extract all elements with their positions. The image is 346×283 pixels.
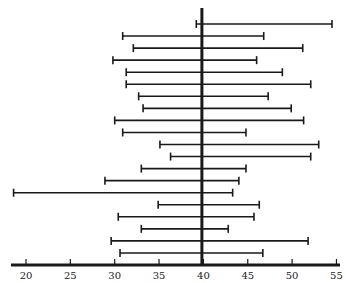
interval-16: [158, 201, 259, 209]
interval-6: [126, 80, 310, 88]
interval-2: [123, 32, 264, 40]
x-tick-label: 25: [64, 270, 77, 281]
interval-bars: [14, 20, 332, 257]
interval-1: [196, 20, 332, 28]
interval-11: [160, 141, 319, 149]
interval-20: [120, 249, 263, 257]
interval-14: [105, 177, 239, 185]
x-tick-label: 20: [20, 270, 33, 281]
confidence-interval-chart: 2025303540455055: [0, 0, 346, 283]
interval-5: [126, 68, 282, 76]
x-tick-label: 45: [241, 270, 254, 281]
interval-19: [111, 237, 308, 245]
interval-13: [141, 165, 246, 173]
interval-8: [143, 104, 291, 112]
interval-12: [171, 153, 311, 161]
x-tick-label: 40: [197, 270, 210, 281]
x-tick-label: 50: [286, 270, 299, 281]
x-tick-label: 35: [153, 270, 166, 281]
interval-4: [113, 56, 257, 64]
x-tick-label: 55: [330, 270, 343, 281]
interval-17: [118, 213, 254, 221]
interval-15: [14, 189, 233, 197]
interval-9: [115, 116, 304, 124]
interval-10: [123, 128, 246, 136]
x-tick-label: 30: [108, 270, 121, 281]
x-axis: 2025303540455055: [11, 259, 343, 281]
interval-18: [141, 225, 228, 233]
interval-3: [133, 44, 302, 52]
